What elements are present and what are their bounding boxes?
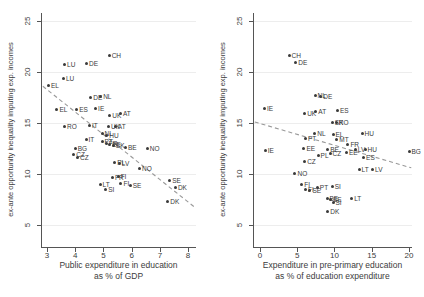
y-tick-label-15: 15 [235, 113, 245, 133]
data-point-label-SI: SI [335, 183, 341, 190]
x-axis-title-left-line1: Public expenditure in education [41, 260, 196, 271]
data-point-IE [264, 149, 267, 152]
data-point-label-LU: LU [66, 75, 74, 82]
figure: ex-ante opportunity inequality imputing … [0, 0, 424, 297]
data-point-label-LT: LT [362, 166, 369, 173]
x-tick-label-0: 0 [252, 251, 268, 260]
data-point-label-IE: IE [268, 147, 274, 154]
data-point-CH [288, 54, 291, 57]
data-point-label-CZ: CZ [80, 154, 89, 161]
data-point-FI [117, 175, 120, 178]
data-point-EL [47, 84, 50, 87]
y-tick-label-20: 20 [235, 62, 245, 82]
data-point-label-AT: AT [123, 110, 131, 117]
data-point-label-NL: NL [317, 130, 325, 137]
data-point-SI [332, 201, 335, 204]
data-point-label-LU: LU [67, 61, 75, 68]
x-axis-title-right-line1: Expenditure in pre-primary education [253, 260, 412, 271]
data-point-label-LT: LT [354, 195, 361, 202]
data-point-label-IT: IT [89, 136, 95, 143]
data-point-label-RO: RO [67, 123, 77, 130]
data-point-label-EE: EE [306, 145, 315, 152]
data-point-PT [316, 186, 319, 189]
x-tick-label-5: 5 [289, 251, 305, 260]
data-point-BG [408, 150, 411, 153]
plot-area-left: 510152025345678CHDELULUELDENLELESIEUKATR… [41, 13, 196, 248]
data-point-LT [99, 183, 102, 186]
x-axis-title-left-line2: as % of GDP [41, 271, 196, 282]
data-point-label-HU: HU [365, 130, 374, 137]
data-point-label-IE: IE [98, 105, 104, 112]
x-tick-label-6: 6 [124, 251, 140, 260]
data-point-BE [124, 146, 127, 149]
data-point-label-CZ: CZ [307, 158, 316, 165]
data-point-label-DK: DK [178, 184, 187, 191]
x-tick-label-15: 15 [364, 251, 380, 260]
x-axis-title-right: Expenditure in pre-primary education as … [253, 260, 412, 281]
data-point-label-FI: FI [121, 173, 127, 180]
data-point-label-SE: SE [133, 182, 142, 189]
data-point-label-EE: EE [349, 149, 358, 156]
y-tick-label-10: 10 [235, 164, 245, 184]
y-tick-label-25: 25 [235, 11, 245, 31]
y-tick-label-25: 25 [23, 11, 33, 31]
y-tick-label-5: 5 [235, 215, 245, 235]
data-point-label-EL: EL [51, 82, 59, 89]
data-point-label-AT: AT [318, 108, 326, 115]
data-point-AT [114, 125, 117, 128]
data-point-EL [332, 133, 335, 136]
x-tick-label-8: 8 [180, 251, 196, 260]
data-point-EE [345, 151, 348, 154]
data-point-label-SE: SE [172, 177, 181, 184]
data-point-FR [111, 176, 114, 179]
data-point-label-CZ: CZ [333, 150, 342, 157]
data-point-label-HU: HU [368, 146, 377, 153]
x-tick-label-20: 20 [401, 251, 417, 260]
data-point-SE [168, 179, 171, 182]
data-point-label-DK: DK [170, 198, 179, 205]
data-point-label-SI: SI [336, 199, 342, 206]
data-point-label-PT: PT [308, 135, 316, 142]
data-point-label-ES: ES [366, 154, 375, 161]
y-tick-label-5: 5 [23, 215, 33, 235]
data-point-FI [300, 183, 303, 186]
data-point-UK [107, 125, 110, 128]
data-point-label-DE: DE [323, 93, 332, 100]
data-point-DK [174, 186, 177, 189]
data-point-CZ [329, 152, 332, 155]
data-point-label-NL: NL [103, 93, 111, 100]
data-point-label-LV: LV [375, 166, 382, 173]
y-axis-title-right: ex-ante opportunity inequality imputing … [217, 10, 228, 250]
data-point-IT [88, 124, 91, 127]
data-point-NL [314, 94, 317, 97]
data-point-label-EL: EL [59, 106, 67, 113]
y-tick-label-15: 15 [23, 113, 33, 133]
x-tick-label-4: 4 [67, 251, 83, 260]
data-point-label-ES: ES [79, 106, 88, 113]
data-point-HU [364, 148, 367, 151]
data-point-PT [304, 137, 307, 140]
data-point-label-SI: SI [108, 186, 114, 193]
data-point-PL [317, 154, 320, 157]
plot-area-right: 51015202505101520CHDENLDEIEUKATESSKRONLE… [253, 13, 412, 248]
y-axis-title-left: ex-ante opportunity inequality imputing … [5, 10, 16, 250]
data-point-label-RO: RO [339, 119, 349, 126]
data-point-label-NO: NO [150, 145, 160, 152]
data-point-label-PT: PT [320, 184, 328, 191]
data-point-NO [146, 147, 149, 150]
data-point-label-BE: BE [128, 144, 137, 151]
data-point-label-ES: ES [340, 107, 349, 114]
data-point-label-LV: LV [122, 160, 129, 167]
data-point-label-NO: NO [142, 165, 152, 172]
data-point-FI [304, 188, 307, 191]
data-point-label-DE: DE [89, 60, 98, 67]
data-point-label-IE: IE [267, 105, 273, 112]
data-point-label-CH: CH [112, 52, 121, 59]
data-point-label-DK: DK [330, 208, 339, 215]
x-tick-label-7: 7 [152, 251, 168, 260]
trend-line [42, 13, 196, 247]
x-axis-title-right-line2: as % of education expenditure [253, 271, 412, 282]
data-point-label-DE: DE [298, 59, 307, 66]
data-point-BG [74, 147, 77, 150]
data-point-CH [108, 54, 111, 57]
